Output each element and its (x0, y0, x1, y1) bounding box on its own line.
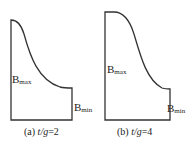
profile-shape-a (11, 20, 72, 120)
caption-b: (b) t/g=4 (117, 127, 152, 137)
label-bmin-b: Bmin (167, 103, 185, 117)
label-bmax-a: Bmax (12, 74, 31, 88)
label-bmax-b: Bmax (107, 64, 126, 78)
diagram-canvas (0, 0, 195, 144)
label-bmin-a: Bmin (74, 102, 92, 116)
caption-a: (a) t/g=2 (24, 127, 59, 137)
